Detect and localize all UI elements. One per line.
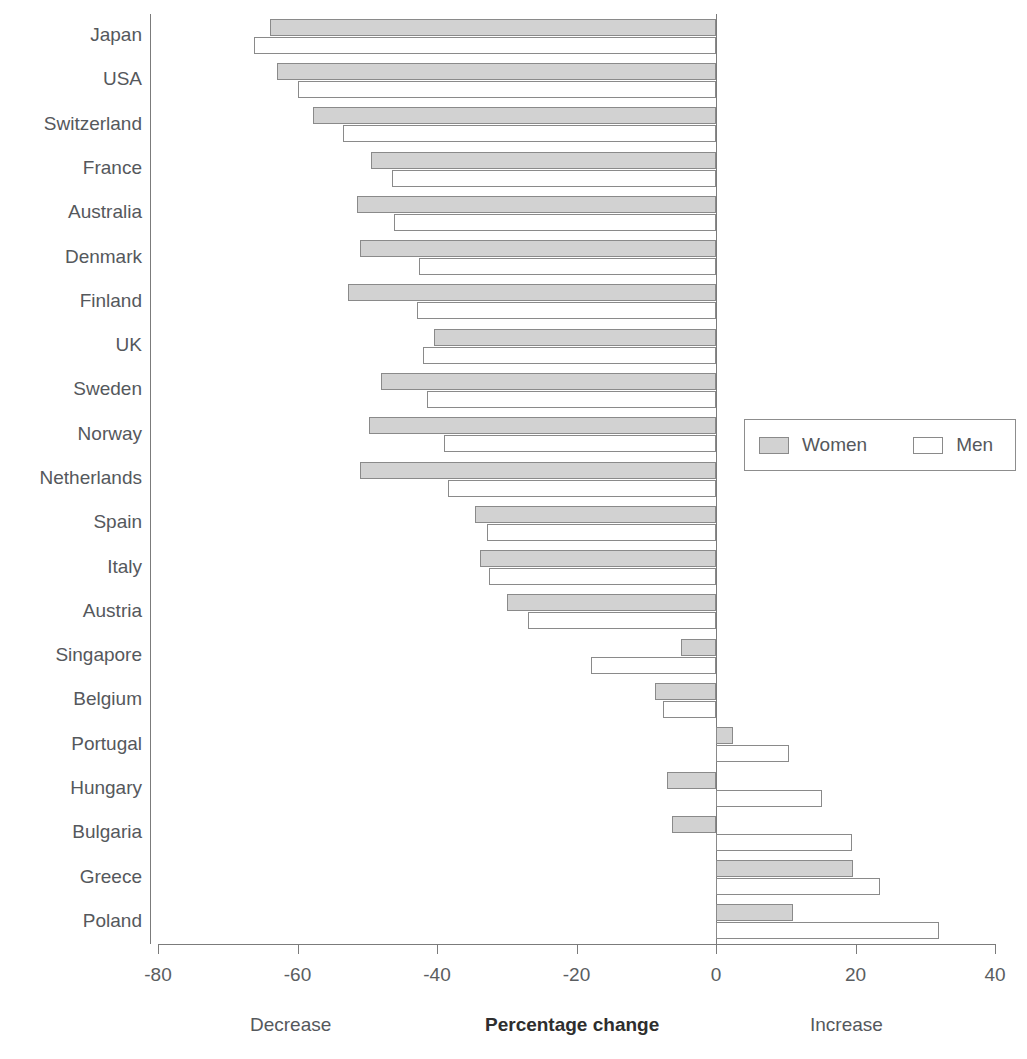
bar-women-denmark — [360, 240, 716, 257]
category-label-denmark: Denmark — [0, 246, 142, 268]
bar-men-switzerland — [343, 125, 716, 142]
category-label-japan: Japan — [0, 24, 142, 46]
bar-men-usa — [298, 81, 717, 98]
legend-item-men: Men — [913, 434, 993, 456]
category-label-spain: Spain — [0, 511, 142, 533]
category-label-switzerland: Switzerland — [0, 113, 142, 135]
bar-men-denmark — [419, 258, 716, 275]
increase-annotation: Increase — [810, 1014, 883, 1036]
category-label-bulgaria: Bulgaria — [0, 821, 142, 843]
bar-women-poland — [716, 904, 793, 921]
category-label-portugal: Portugal — [0, 733, 142, 755]
bar-men-netherlands — [448, 480, 716, 497]
bar-women-italy — [480, 550, 716, 567]
bar-men-portugal — [716, 745, 789, 762]
category-label-norway: Norway — [0, 423, 142, 445]
bar-men-singapore — [591, 657, 716, 674]
category-label-usa: USA — [0, 68, 142, 90]
legend-item-women: Women — [759, 434, 867, 456]
bar-women-portugal — [716, 727, 733, 744]
category-label-singapore: Singapore — [0, 644, 142, 666]
x-axis-tick-label: 40 — [965, 964, 1025, 986]
bar-women-australia — [357, 196, 716, 213]
bar-women-sweden — [381, 373, 716, 390]
legend-swatch-women-icon — [759, 437, 789, 454]
legend-label-men: Men — [956, 434, 993, 456]
bar-men-norway — [444, 435, 716, 452]
bar-women-belgium — [655, 683, 716, 700]
bar-women-austria — [507, 594, 716, 611]
bar-men-spain — [487, 524, 716, 541]
x-axis-tick — [298, 944, 299, 954]
category-label-italy: Italy — [0, 556, 142, 578]
category-label-greece: Greece — [0, 866, 142, 888]
category-axis-line — [150, 14, 151, 944]
x-axis-tick-label: -80 — [128, 964, 188, 986]
bar-women-france — [371, 152, 716, 169]
category-label-sweden: Sweden — [0, 378, 142, 400]
legend-swatch-men-icon — [913, 437, 943, 454]
bar-men-belgium — [663, 701, 716, 718]
bar-women-bulgaria — [672, 816, 716, 833]
bar-men-japan — [254, 37, 716, 54]
bar-men-bulgaria — [716, 834, 852, 851]
bar-men-italy — [489, 568, 716, 585]
category-label-poland: Poland — [0, 910, 142, 932]
bar-women-usa — [277, 63, 716, 80]
bar-women-norway — [369, 417, 716, 434]
bar-men-finland — [417, 302, 716, 319]
bar-women-switzerland — [313, 107, 716, 124]
x-axis-tick — [577, 944, 578, 954]
legend-label-women: Women — [802, 434, 867, 456]
bar-women-hungary — [667, 772, 716, 789]
category-label-australia: Australia — [0, 201, 142, 223]
bar-women-greece — [716, 860, 853, 877]
decrease-annotation: Decrease — [250, 1014, 331, 1036]
x-axis-tick — [158, 944, 159, 954]
category-label-uk: UK — [0, 334, 142, 356]
bar-women-uk — [434, 329, 716, 346]
category-label-netherlands: Netherlands — [0, 467, 142, 489]
bar-women-netherlands — [360, 462, 716, 479]
x-axis-tick-label: -20 — [547, 964, 607, 986]
x-axis-tick-label: 20 — [826, 964, 886, 986]
percentage-change-bar-chart: -80-60-40-2002040 Women Men Decrease Per… — [0, 0, 1027, 1059]
x-axis-tick — [716, 944, 717, 954]
x-axis-tick-label: -60 — [268, 964, 328, 986]
x-axis-tick — [856, 944, 857, 954]
bar-men-sweden — [427, 391, 716, 408]
category-label-finland: Finland — [0, 290, 142, 312]
chart-legend: Women Men — [744, 419, 1016, 471]
bar-men-austria — [528, 612, 716, 629]
bar-men-uk — [423, 347, 716, 364]
bar-women-finland — [348, 284, 716, 301]
bar-men-france — [392, 170, 716, 187]
x-axis-tick-label: 0 — [686, 964, 746, 986]
category-label-france: France — [0, 157, 142, 179]
bar-men-poland — [716, 922, 939, 939]
x-axis-tick — [437, 944, 438, 954]
category-label-austria: Austria — [0, 600, 142, 622]
bar-men-hungary — [716, 790, 822, 807]
x-axis-tick — [995, 944, 996, 954]
bar-women-japan — [270, 19, 716, 36]
category-label-hungary: Hungary — [0, 777, 142, 799]
bar-men-greece — [716, 878, 880, 895]
bar-women-spain — [475, 506, 716, 523]
x-axis-title: Percentage change — [485, 1014, 659, 1036]
category-label-belgium: Belgium — [0, 688, 142, 710]
bar-women-singapore — [681, 639, 716, 656]
bar-men-australia — [394, 214, 716, 231]
plot-area: -80-60-40-2002040 — [0, 0, 1027, 1059]
x-axis-tick-label: -40 — [407, 964, 467, 986]
